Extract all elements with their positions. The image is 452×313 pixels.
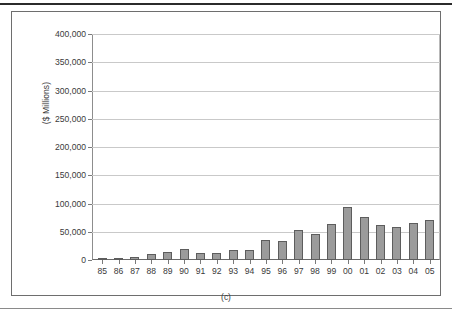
y-axis-tick-mark	[88, 232, 92, 233]
x-axis-tick-slot	[127, 260, 143, 265]
bar-slot	[209, 34, 225, 260]
x-axis-tick-label: 05	[422, 266, 438, 276]
x-axis-tick-label: 92	[209, 266, 225, 276]
x-axis-tick-slot	[372, 260, 388, 265]
y-axis-tick-mark	[88, 91, 92, 92]
x-axis-tick-mark	[250, 260, 251, 264]
x-axis-tick-label: 91	[192, 266, 208, 276]
plot-area	[92, 34, 440, 260]
y-axis-tick-label: 250,000	[12, 114, 86, 124]
y-axis-tick-mark	[88, 62, 92, 63]
x-axis-tick-slot	[225, 260, 241, 265]
y-axis-tick-mark	[88, 34, 92, 35]
x-axis-tick-slot	[110, 260, 126, 265]
x-axis-tick-slot	[94, 260, 110, 265]
bar	[229, 250, 238, 260]
x-axis-tick-slot	[307, 260, 323, 265]
x-axis-tick-label: 88	[143, 266, 159, 276]
y-axis-tick-mark	[88, 147, 92, 148]
x-axis-tick-slot	[274, 260, 290, 265]
figure-caption: (c)	[0, 292, 452, 302]
x-axis-tick-mark	[315, 260, 316, 264]
x-axis-tick-label: 93	[225, 266, 241, 276]
x-axis-tick-mark	[233, 260, 234, 264]
x-axis-tick-label: 98	[307, 266, 323, 276]
x-axis-tick-slot	[291, 260, 307, 265]
bar-slot	[241, 34, 257, 260]
bar	[261, 240, 270, 260]
bar-slot	[192, 34, 208, 260]
x-axis-tick-mark	[430, 260, 431, 264]
bar-slot	[176, 34, 192, 260]
x-axis-tick-mark	[413, 260, 414, 264]
x-axis-tick-mark	[266, 260, 267, 264]
x-axis-tick-slot	[258, 260, 274, 265]
x-axis-tick-label: 97	[291, 266, 307, 276]
x-axis-tick-mark	[397, 260, 398, 264]
x-axis-tick-slot	[422, 260, 438, 265]
bar	[376, 225, 385, 260]
bar	[360, 217, 369, 260]
x-axis-tick-mark	[299, 260, 300, 264]
bar	[327, 224, 336, 260]
bar-slot	[307, 34, 323, 260]
x-axis-tick-mark	[119, 260, 120, 264]
bar-slot	[340, 34, 356, 260]
bar-slot	[372, 34, 388, 260]
x-axis-tick-label: 90	[176, 266, 192, 276]
figure-border-box: ($ Millions) 400,000350,000300,000250,00…	[11, 11, 441, 296]
bar	[180, 249, 189, 260]
bar-slot	[258, 34, 274, 260]
bar-slot	[422, 34, 438, 260]
bar-slot	[110, 34, 126, 260]
x-axis-tick-label: 85	[94, 266, 110, 276]
x-axis-tick-mark	[151, 260, 152, 264]
y-axis-tick-label: 0	[12, 255, 86, 265]
y-axis-tick-mark	[88, 119, 92, 120]
x-axis-tick-slot	[389, 260, 405, 265]
x-axis-tick-mark	[282, 260, 283, 264]
top-rule	[0, 3, 452, 5]
x-axis-tick-label: 03	[389, 266, 405, 276]
x-axis-tick-slot	[176, 260, 192, 265]
x-axis-tick-label: 95	[258, 266, 274, 276]
x-axis-tick-slot	[356, 260, 372, 265]
x-axis-tick-label: 02	[372, 266, 388, 276]
bar	[294, 230, 303, 260]
y-axis-tick-label: 200,000	[12, 142, 86, 152]
y-axis-tick-label: 50,000	[12, 227, 86, 237]
bar-slot	[94, 34, 110, 260]
x-axis-labels: 8586878889909192939495969798990001020304…	[92, 266, 440, 276]
x-axis-tick-slot	[241, 260, 257, 265]
x-axis-tick-slot	[209, 260, 225, 265]
x-axis-tick-mark	[200, 260, 201, 264]
x-axis-tick-mark	[168, 260, 169, 264]
y-axis-tick-label: 350,000	[12, 57, 86, 67]
x-axis-tick-slot	[160, 260, 176, 265]
x-axis-tick-label: 87	[127, 266, 143, 276]
y-axis-tick-mark	[88, 175, 92, 176]
bar-slot	[225, 34, 241, 260]
bar-slot	[274, 34, 290, 260]
x-axis-tick-label: 04	[405, 266, 421, 276]
x-axis-tick-slot	[340, 260, 356, 265]
bar	[278, 241, 287, 260]
y-axis-tick-label: 400,000	[12, 29, 86, 39]
bar	[245, 250, 254, 260]
x-axis-tick-label: 89	[160, 266, 176, 276]
x-axis-tick-label: 00	[340, 266, 356, 276]
bar-slot	[143, 34, 159, 260]
figure-page: ($ Millions) 400,000350,000300,000250,00…	[0, 0, 452, 313]
x-axis-tick-slot	[405, 260, 421, 265]
x-axis-tick-mark	[348, 260, 349, 264]
bar-slot	[405, 34, 421, 260]
x-axis-tick-slot	[143, 260, 159, 265]
x-axis-ticks	[92, 260, 440, 265]
bottom-rule	[0, 308, 452, 309]
x-axis-tick-mark	[184, 260, 185, 264]
y-axis-tick-label: 300,000	[12, 86, 86, 96]
x-axis-tick-mark	[135, 260, 136, 264]
x-axis-tick-mark	[364, 260, 365, 264]
bar-slot	[291, 34, 307, 260]
y-axis-tick-label: 100,000	[12, 199, 86, 209]
